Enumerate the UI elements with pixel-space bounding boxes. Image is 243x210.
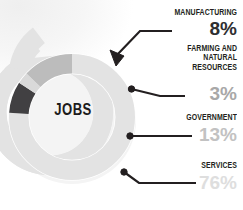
callout-services-label: SERVICES [152, 161, 237, 170]
jobs-donut-infographic: JOBS MANUFACTURING 8% FARMING AND NATURA… [0, 0, 243, 210]
callout-manufacturing-label: MANUFACTURING [144, 8, 238, 17]
callout-government-value-wrap: 13% [137, 124, 237, 146]
callout-farming-label: FARMING AND NATURAL RESOURCES [152, 44, 237, 72]
callout-services-value-wrap: 76% [137, 172, 237, 194]
callout-services: SERVICES [137, 161, 237, 170]
callout-government: GOVERNMENT [137, 113, 237, 122]
callout-manufacturing-value: 8% [210, 18, 237, 40]
callout-government-label: GOVERNMENT [152, 113, 237, 122]
callout-farming-value-wrap: 3% [137, 83, 237, 105]
center-label: JOBS [25, 101, 122, 119]
callout-manufacturing-value-wrap: 8% [127, 18, 237, 40]
callout-farming: FARMING AND NATURAL RESOURCES [137, 44, 237, 72]
callout-services-value: 76% [199, 172, 237, 194]
callout-manufacturing: MANUFACTURING [127, 8, 237, 17]
callout-farming-value: 3% [210, 83, 237, 105]
callout-government-value: 13% [199, 124, 237, 146]
leader-manufacturing-marker [110, 50, 124, 66]
